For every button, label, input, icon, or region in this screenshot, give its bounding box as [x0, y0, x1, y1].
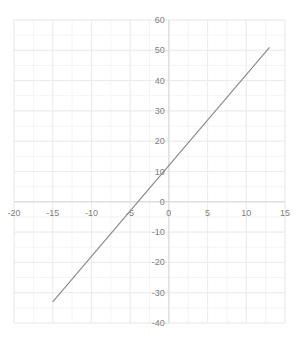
y-tick-label: 20: [155, 136, 165, 146]
y-tick-label: -20: [152, 257, 165, 267]
y-tick-label: -10: [152, 227, 165, 237]
x-tick-label: 5: [205, 208, 210, 218]
x-axis-tick-labels: -20-15-10-5051015: [7, 208, 290, 218]
x-tick-label: 15: [280, 208, 290, 218]
y-tick-label: -40: [152, 318, 165, 328]
y-tick-label: 60: [155, 15, 165, 25]
y-tick-label: -30: [152, 288, 165, 298]
x-tick-label: 10: [241, 208, 251, 218]
line-chart: -20-15-10-5051015 -40-30-20-100102030405…: [0, 0, 300, 339]
x-tick-label: -5: [126, 208, 134, 218]
x-tick-label: -10: [85, 208, 98, 218]
gridlines: [14, 20, 285, 323]
x-tick-label: -15: [46, 208, 59, 218]
x-tick-label: -20: [7, 208, 20, 218]
y-tick-label: 30: [155, 106, 165, 116]
x-tick-label: 0: [166, 208, 171, 218]
y-tick-label: 0: [160, 197, 165, 207]
y-tick-label: 40: [155, 76, 165, 86]
y-tick-label: 50: [155, 45, 165, 55]
